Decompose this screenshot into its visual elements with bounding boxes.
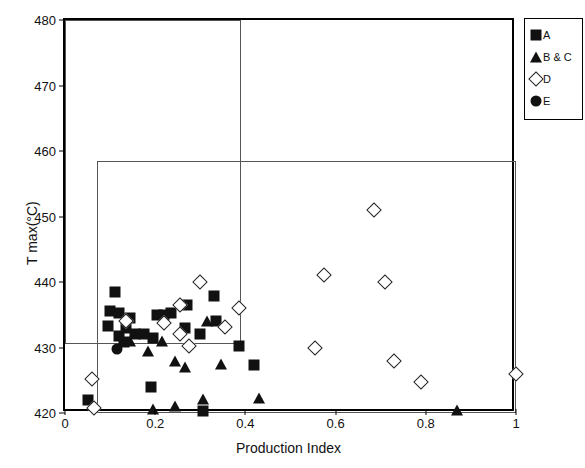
x-tick-mark xyxy=(245,409,246,415)
plot-area: 420430440450460470480 00.20.40.60.81 xyxy=(63,18,514,411)
data-point xyxy=(124,335,136,346)
y-tick-mark xyxy=(59,151,65,152)
data-point xyxy=(386,353,402,369)
y-tick-mark xyxy=(59,20,65,21)
legend-label: D xyxy=(543,74,551,85)
data-point xyxy=(377,274,393,290)
data-point xyxy=(215,358,227,369)
y-axis-title: T max(°C) xyxy=(24,201,40,265)
legend-item: E xyxy=(529,90,582,112)
data-point xyxy=(253,392,265,403)
legend-item: B & C xyxy=(529,46,582,68)
data-point xyxy=(156,335,168,346)
data-point xyxy=(201,316,213,327)
data-point xyxy=(208,291,219,302)
y-tick-label: 430 xyxy=(0,341,65,354)
data-point xyxy=(109,286,120,297)
x-tick-label: 0.6 xyxy=(327,417,345,430)
y-tick-label: 480 xyxy=(0,14,65,27)
data-point xyxy=(414,374,430,390)
data-point xyxy=(181,338,197,354)
chart-figure: 420430440450460470480 00.20.40.60.81 Pro… xyxy=(0,0,585,468)
x-tick-mark xyxy=(65,409,66,415)
data-point xyxy=(142,345,154,356)
filled-circle-icon xyxy=(529,94,543,108)
upper-threshold-box xyxy=(97,161,516,413)
data-point xyxy=(508,366,524,382)
data-point xyxy=(366,202,382,218)
data-point xyxy=(451,404,463,415)
y-tick-label: 440 xyxy=(0,276,65,289)
x-tick-mark xyxy=(155,409,156,415)
y-tick-label: 470 xyxy=(0,79,65,92)
y-tick-mark xyxy=(59,216,65,217)
legend-label: A xyxy=(543,30,550,41)
plot-container: 420430440450460470480 00.20.40.60.81 Pro… xyxy=(0,0,585,468)
x-axis-title: Production Index xyxy=(63,440,514,456)
legend-label: E xyxy=(543,96,550,107)
y-tick-mark xyxy=(59,282,65,283)
x-tick-label: 0 xyxy=(61,417,68,430)
data-point xyxy=(233,340,244,351)
x-tick-mark xyxy=(335,409,336,415)
data-point xyxy=(145,381,156,392)
data-point xyxy=(317,268,333,284)
data-point xyxy=(179,362,191,373)
legend-item: A xyxy=(529,24,582,46)
data-point xyxy=(308,340,324,356)
legend-item: D xyxy=(529,68,582,90)
x-tick-mark xyxy=(425,409,426,415)
data-point xyxy=(169,401,181,412)
y-tick-mark xyxy=(59,347,65,348)
data-point xyxy=(197,393,209,404)
data-point xyxy=(195,329,206,340)
data-point xyxy=(231,300,247,316)
x-tick-label: 1 xyxy=(512,417,519,430)
y-tick-label: 420 xyxy=(0,407,65,420)
y-tick-label: 460 xyxy=(0,145,65,158)
data-point xyxy=(249,360,260,371)
data-point xyxy=(111,343,122,354)
x-tick-label: 0.2 xyxy=(146,417,164,430)
data-point xyxy=(165,308,176,319)
open-diamond-icon xyxy=(529,72,543,86)
x-tick-label: 0.4 xyxy=(236,417,254,430)
y-tick-mark xyxy=(59,85,65,86)
data-point xyxy=(84,371,100,387)
x-tick-label: 0.8 xyxy=(417,417,435,430)
data-point xyxy=(147,404,159,415)
legend-label: B & C xyxy=(543,52,572,63)
legend: AB & CDE xyxy=(524,18,583,120)
filled-square-icon xyxy=(529,28,543,42)
filled-triangle-icon xyxy=(529,50,543,64)
x-tick-mark xyxy=(516,409,517,415)
data-point xyxy=(193,274,209,290)
data-point xyxy=(197,406,208,417)
data-point xyxy=(102,320,113,331)
